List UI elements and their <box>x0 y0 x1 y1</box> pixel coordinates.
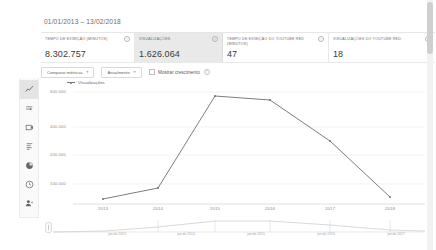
help-icon[interactable]: ? <box>204 69 210 75</box>
analytics-page: 01/01/2013 – 13/02/2018 TEMPO DE EXIBIÇÃ… <box>0 0 436 250</box>
metric-card-value: 18 <box>333 49 343 59</box>
main-chart: Visualizações 600.000 400.000 200.000 10… <box>45 78 431 218</box>
navigator-date-label: jan de 2016 <box>317 232 335 236</box>
x-axis-tick: 2016 <box>265 206 275 211</box>
subtitles-icon <box>25 104 34 113</box>
data-point <box>102 198 104 200</box>
metric-card-label: TEMPO DE EXIBIÇÃO (MINUTOS) <box>45 37 128 42</box>
pie-chart-icon <box>25 161 34 170</box>
chart-type-sidebar <box>19 78 39 218</box>
metric-card-views[interactable]: VISUALIZAÇÕES i 1.626.064 <box>135 33 223 62</box>
range-handle-icon[interactable] <box>45 222 52 233</box>
sidebar-item-audience[interactable] <box>20 194 38 213</box>
info-icon[interactable]: i <box>318 36 324 42</box>
list-icon <box>25 142 34 151</box>
sidebar-item-line-chart[interactable] <box>20 80 38 99</box>
info-icon[interactable]: i <box>124 36 130 42</box>
metric-card-value: 47 <box>227 49 237 59</box>
x-axis-tick: 2015 <box>210 206 220 211</box>
show-growth-checkbox[interactable]: Mostrar crescimento ? <box>149 69 210 76</box>
chevron-down-icon: ▾ <box>87 70 89 74</box>
period-dropdown[interactable]: Anualmente ▾ <box>101 67 141 78</box>
data-point <box>214 95 216 97</box>
navigator-date-label: jan de 2015 <box>247 232 265 236</box>
info-icon[interactable]: i <box>212 36 218 42</box>
chevron-down-icon: ▾ <box>134 70 136 74</box>
scrollbar-thumb[interactable] <box>427 2 433 54</box>
metric-card-label: VISUALIZAÇÕES DO YOUTUBE RED <box>333 37 419 42</box>
line-chart-icon <box>25 85 34 94</box>
metric-card-label: TEMPO DE EXIBIÇÃO DO YOUTUBE RED (MINUTO… <box>227 37 319 47</box>
metric-card-value: 1.626.064 <box>139 49 180 59</box>
compare-metrics-dropdown[interactable]: Comparar métricas ▾ <box>41 67 94 78</box>
metric-cards: TEMPO DE EXIBIÇÃO (MINUTOS) i 8.302.757 … <box>41 32 435 63</box>
navigator-date-label: jan de 2013 <box>108 232 126 236</box>
x-axis-tick: 2017 <box>325 206 335 211</box>
metric-card-label: VISUALIZAÇÕES <box>139 37 216 42</box>
data-point <box>329 140 331 142</box>
sidebar-item-video[interactable] <box>20 118 38 137</box>
data-point <box>389 196 391 198</box>
compare-metrics-label: Comparar métricas <box>47 70 83 75</box>
date-range-label: 01/01/2013 – 13/02/2018 <box>44 18 121 25</box>
range-navigator[interactable]: jan de 2013 jan de 2014 jan de 2015 jan … <box>45 218 431 244</box>
clock-icon <box>25 180 34 189</box>
metric-card-red-watch-time[interactable]: TEMPO DE EXIBIÇÃO DO YOUTUBE RED (MINUTO… <box>223 33 329 62</box>
sidebar-item-subtitles[interactable] <box>20 99 38 118</box>
show-growth-label: Mostrar crescimento <box>158 70 200 75</box>
metric-card-value: 8.302.757 <box>45 49 86 59</box>
metric-card-red-views[interactable]: VISUALIZAÇÕES DO YOUTUBE RED i 18 <box>329 33 435 62</box>
navigator-date-label: jan de 2014 <box>177 232 195 236</box>
period-label: Anualmente <box>107 70 129 75</box>
data-point <box>269 99 271 101</box>
summary-panel: 01/01/2013 – 13/02/2018 TEMPO DE EXIBIÇÃ… <box>18 6 418 72</box>
navigator-series-line <box>53 221 425 232</box>
metric-card-watch-time[interactable]: TEMPO DE EXIBIÇÃO (MINUTOS) i 8.302.757 <box>41 33 135 62</box>
navigator-plot <box>45 218 431 238</box>
chart-controls: Comparar métricas ▾ Anualmente ▾ Mostrar… <box>41 66 435 78</box>
navigator-date-label: jan de 2017 <box>387 232 405 236</box>
sidebar-item-list[interactable] <box>20 137 38 156</box>
sidebar-item-clock[interactable] <box>20 175 38 194</box>
checkbox-icon[interactable] <box>149 69 156 76</box>
page-scrollbar[interactable] <box>427 0 433 250</box>
audience-icon <box>25 199 34 208</box>
sidebar-item-pie-chart[interactable] <box>20 156 38 175</box>
video-icon <box>25 123 34 132</box>
x-axis-tick: 2014 <box>153 206 163 211</box>
x-axis-tick: 2013 <box>98 206 108 211</box>
series-line-visualizacoes <box>103 96 390 199</box>
x-axis-tick: 2018 <box>385 206 395 211</box>
chart-plot-area <box>45 78 431 218</box>
data-point <box>157 187 159 189</box>
